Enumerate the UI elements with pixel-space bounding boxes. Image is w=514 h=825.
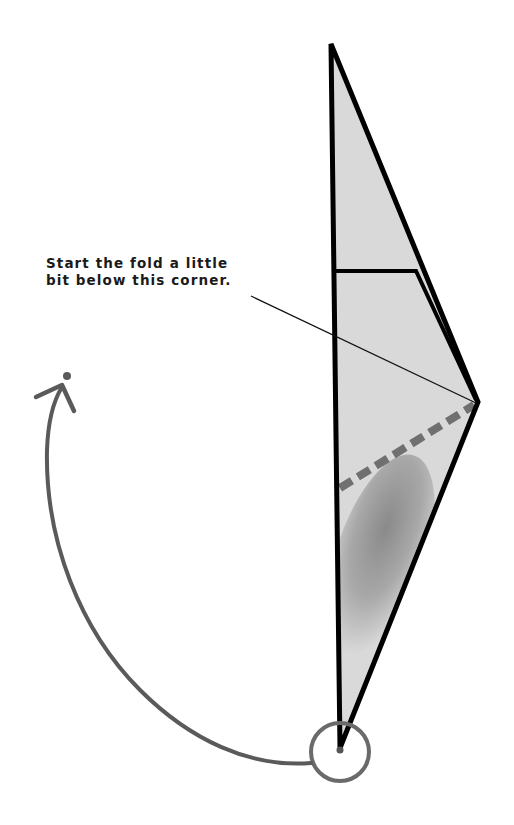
instruction-line-2: bit below this corner. xyxy=(46,272,232,289)
instruction-callout: Start the fold a little bit below this c… xyxy=(46,255,232,289)
origami-diagram xyxy=(0,0,514,825)
pivot-dot xyxy=(337,747,344,754)
instruction-line-1: Start the fold a little xyxy=(46,255,232,272)
arrow-dot xyxy=(63,372,71,380)
rotation-arrow-curve xyxy=(47,387,311,764)
